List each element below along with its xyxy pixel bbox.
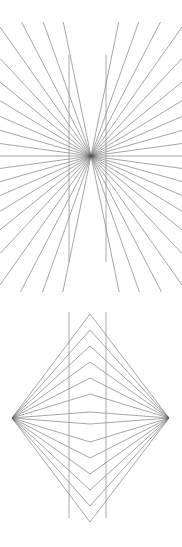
illusion-figure-canvas [0, 0, 182, 547]
canvas-background [0, 0, 182, 547]
